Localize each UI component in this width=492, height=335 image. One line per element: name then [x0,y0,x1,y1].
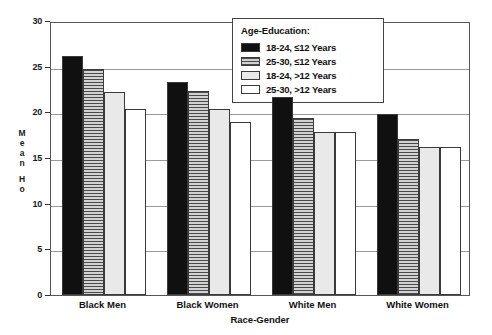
bar [377,114,398,295]
legend-item: 18-24, ≤12 Years [241,40,376,54]
y-axis-title-char: n [13,158,31,168]
bar [188,91,209,295]
bar [314,132,335,295]
legend-swatch [241,57,260,66]
y-axis-tick-label: 15 [32,153,42,163]
y-axis-title-char: o [13,184,31,194]
bar-group [51,23,156,295]
bar [398,139,419,295]
legend-item: 25-30, ≤12 Years [241,54,376,68]
x-axis-label: Black Men [50,299,155,310]
y-axis-tick-label: 30 [32,16,42,26]
legend-title: Age-Education: [241,25,376,36]
legend-item-label: 18-24, >12 Years [266,70,336,81]
legend-item: 25-30, >12 Years [241,82,376,96]
bar [209,109,230,295]
legend-swatch [241,85,260,94]
legend-item: 18-24, >12 Years [241,68,376,82]
x-axis-label: White Women [365,299,470,310]
legend-item-label: 25-30, >12 Years [266,84,336,95]
bar [167,82,188,295]
y-axis-tick-label: 10 [32,199,42,209]
legend-items: 18-24, ≤12 Years25-30, ≤12 Years18-24, >… [241,40,376,96]
bar [83,69,104,295]
legend-swatch [241,43,260,52]
bar [272,97,293,295]
legend: Age-Education: 18-24, ≤12 Years25-30, ≤1… [232,18,384,103]
y-axis-tick-label: 5 [37,244,42,254]
y-axis-title-char: M [13,128,31,138]
y-axis-tick-label: 0 [37,290,42,300]
y-axis-title-char: e [13,138,31,148]
bar [440,147,461,295]
x-axis-label: White Men [260,299,365,310]
y-axis-title: MeanHo [13,128,31,194]
x-axis-title: Race-Gender [50,314,470,325]
legend-item-label: 18-24, ≤12 Years [266,42,336,53]
bar [104,92,125,295]
bar [335,132,356,295]
x-axis-labels: Black MenBlack WomenWhite MenWhite Women [50,299,470,313]
bar [62,56,83,295]
bar [293,118,314,295]
x-axis-label: Black Women [155,299,260,310]
y-axis-title-char: H [13,174,31,184]
legend-item-label: 25-30, ≤12 Years [266,56,336,67]
legend-swatch [241,71,260,80]
y-axis-tick-label: 20 [32,107,42,117]
bar-chart: 302520151050 MeanHo Black MenBlack Women… [0,0,492,335]
bar [230,122,251,295]
bar [419,147,440,295]
bar [125,109,146,295]
y-axis-title-char: a [13,148,31,158]
y-axis-tick-label: 25 [32,62,42,72]
